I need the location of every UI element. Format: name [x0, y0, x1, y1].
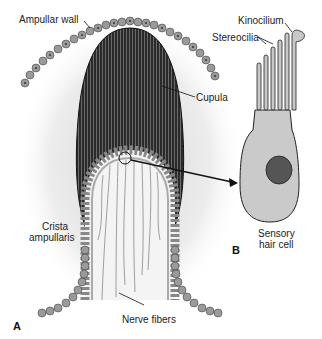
- panel-label-b: B: [232, 244, 240, 256]
- stereocilia: [257, 33, 289, 110]
- label-hair-cell-2: hair cell: [259, 239, 293, 250]
- label-stereocilia: Stereocilia: [212, 32, 259, 43]
- leader-stereocilia-2: [258, 37, 273, 44]
- label-hair-cell-1: Sensory: [258, 228, 295, 239]
- leader-kinocilium: [285, 23, 292, 32]
- sensory-hair-cell: [240, 30, 305, 222]
- label-kinocilium: Kinocilium: [238, 15, 284, 26]
- panel-label-a: A: [13, 320, 21, 332]
- ampulla-diagram: [0, 0, 322, 339]
- label-crista-1: Crista: [42, 221, 68, 232]
- label-ampullar-wall: Ampullar wall: [19, 14, 78, 25]
- label-cupula: Cupula: [196, 92, 228, 103]
- kinocilium: [292, 30, 305, 110]
- label-nerve-fibers: Nerve fibers: [122, 314, 176, 325]
- nucleus: [266, 156, 292, 184]
- label-crista-2: ampullaris: [29, 232, 75, 243]
